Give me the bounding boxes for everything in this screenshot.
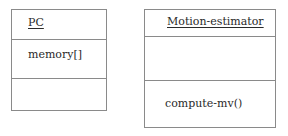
class-pc-attributes-section: memory[] [12, 39, 106, 78]
class-pc: PC memory[] [11, 9, 107, 111]
class-motion-estimator-name: Motion-estimator [167, 15, 264, 28]
class-motion-estimator-operations-section: compute-mv() [145, 80, 275, 127]
class-pc-operations-section [12, 78, 106, 110]
class-motion-estimator-attributes-section [145, 36, 275, 80]
class-motion-estimator: Motion-estimator compute-mv() [144, 9, 276, 128]
class-motion-estimator-name-section: Motion-estimator [145, 10, 275, 36]
class-pc-name: PC [28, 16, 44, 29]
class-pc-name-section: PC [12, 10, 106, 39]
class-pc-attribute: memory[] [28, 48, 82, 61]
class-motion-estimator-operation: compute-mv() [165, 97, 242, 110]
